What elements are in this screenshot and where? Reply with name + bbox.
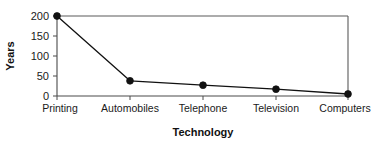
- y-axis-ticks: [53, 16, 57, 96]
- y-tick-label-50: 50: [37, 70, 49, 82]
- x-axis-title: Technology: [173, 126, 235, 138]
- x-tick-label-automobiles: Automobiles: [101, 102, 159, 114]
- x-tick-label-television: Television: [253, 102, 299, 114]
- y-axis-title: Years: [4, 41, 16, 70]
- data-point: [345, 91, 352, 98]
- line-chart: 0 50 100 150 200 Printing Automobiles Te…: [0, 0, 381, 148]
- y-tick-label-200: 200: [31, 10, 49, 22]
- x-tick-label-telephone: Telephone: [179, 102, 228, 114]
- x-tick-label-computers: Computers: [319, 102, 370, 114]
- chart-canvas: 0 50 100 150 200 Printing Automobiles Te…: [0, 0, 381, 148]
- x-tick-label-printing: Printing: [42, 102, 78, 114]
- data-point: [200, 82, 207, 89]
- x-axis-tick-labels: Printing Automobiles Telephone Televisio…: [42, 102, 370, 114]
- y-tick-label-100: 100: [31, 50, 49, 62]
- data-point: [54, 13, 61, 20]
- y-tick-label-0: 0: [43, 90, 49, 102]
- series-markers-years: [54, 13, 352, 98]
- y-axis-tick-labels: 0 50 100 150 200: [31, 10, 49, 102]
- data-point: [273, 86, 280, 93]
- y-tick-label-150: 150: [31, 30, 49, 42]
- data-point: [127, 77, 134, 84]
- x-axis-ticks: [57, 96, 348, 100]
- data-series-years: [54, 13, 352, 98]
